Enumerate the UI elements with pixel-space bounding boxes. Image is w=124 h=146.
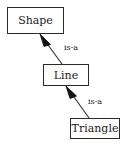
edge-label-triangle-is-a-line: is-a <box>88 98 102 106</box>
edge-triangle-to-line <box>66 86 89 118</box>
class-node-line[interactable]: Line <box>43 64 89 86</box>
uml-inheritance-diagram: Shape --> Line --> Shape Line Triangle i… <box>0 0 124 146</box>
edge-label-line-is-a-shape: is-a <box>64 44 78 52</box>
class-node-line-label: Line <box>54 70 78 81</box>
edge-line-to-shape <box>40 34 62 64</box>
class-node-triangle[interactable]: Triangle <box>70 118 120 139</box>
class-node-triangle-label: Triangle <box>72 123 119 134</box>
class-node-shape-label: Shape <box>18 15 53 26</box>
edge-line-to-shape-arrowhead <box>40 34 51 47</box>
edge-triangle-to-line-arrowhead <box>66 86 77 99</box>
class-node-shape[interactable]: Shape <box>7 7 64 34</box>
